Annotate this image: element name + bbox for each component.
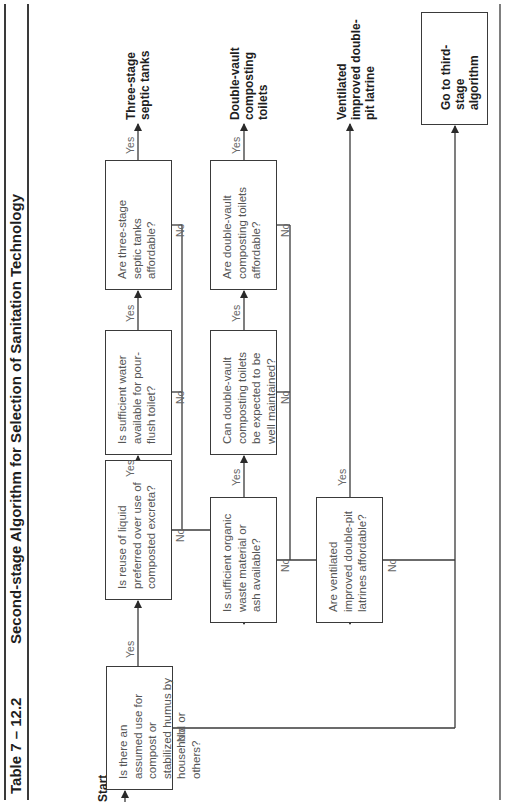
- edge-label-yes: Yes: [230, 137, 242, 154]
- edge-label-yes: Yes: [230, 469, 242, 486]
- edge-label-no: No: [175, 729, 187, 742]
- edge-label-yes: Yes: [124, 137, 136, 154]
- decision-organic-waste: Is sufficient organic waste material or …: [210, 497, 277, 623]
- outcome-vip-latrine: Ventilated improved double-pit latrine: [335, 8, 377, 120]
- decision-liquid-reuse: Is reuse of liquid preferred over use of…: [105, 460, 172, 600]
- edge-label-no: No: [279, 224, 291, 237]
- edge-label-yes: Yes: [124, 305, 136, 322]
- decision-septic-affordable: Are three-stage septic tanks affordable?: [105, 160, 172, 290]
- decision-water-available: Is sufficient water available for pour-f…: [105, 330, 172, 455]
- edge-label-no: No: [174, 529, 186, 542]
- edge-label-no: No: [386, 559, 398, 572]
- edge-label-no: No: [279, 391, 291, 404]
- edge-label-yes: Yes: [124, 641, 136, 658]
- edge-label-no: No: [174, 391, 186, 404]
- outcome-septic-tanks: Three-stage septic tanks: [124, 32, 152, 120]
- decision-composting-maintained: Can double-vault composting toilets be e…: [210, 330, 277, 455]
- edge-label-yes: Yes: [336, 469, 348, 486]
- edge-label-yes: Yes: [230, 305, 242, 322]
- decision-composting-affordable: Are double-vault composting toilets affo…: [210, 160, 277, 290]
- outcome-composting-toilets: Double-vault composting toilets: [228, 32, 270, 120]
- outcome-third-stage: Go to third-stage algorithm: [421, 12, 488, 125]
- decision-vip-affordable: Are ventilated improved double-pit latri…: [316, 497, 383, 623]
- edge-label-yes: Yes: [124, 460, 136, 477]
- flowchart-page: Table 7 – 12.2 Second-stage Algorithm fo…: [0, 0, 516, 804]
- edge-label-no: No: [279, 559, 291, 572]
- edge-label-no: No: [174, 224, 186, 237]
- decision-compost-use: Is there an assumed use for compost or s…: [106, 666, 173, 790]
